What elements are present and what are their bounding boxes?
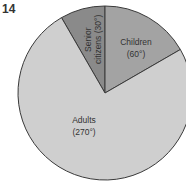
- children-label: Children: [120, 37, 152, 47]
- senior-label-line1: Senior: [83, 27, 93, 52]
- children-value: (60°): [127, 49, 146, 59]
- senior-label-line2: citizens (30°): [93, 15, 103, 64]
- pie-chart: Senior citizens (30°) Children (60°) Adu…: [0, 0, 186, 181]
- adults-label: Adults: [72, 115, 96, 125]
- adults-value: (270°): [72, 127, 95, 137]
